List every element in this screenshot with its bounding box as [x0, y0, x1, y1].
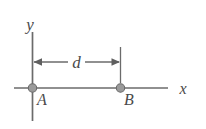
dimension-arrowhead-right	[112, 58, 121, 65]
point-label-a: A	[36, 91, 47, 108]
y-axis-label: y	[24, 15, 34, 34]
diagram-canvas: y x d A B	[0, 0, 206, 129]
point-marker-a	[28, 84, 36, 92]
x-axis-label: x	[178, 80, 186, 97]
point-label-b: B	[124, 91, 134, 108]
dimension-arrowhead-left	[34, 58, 43, 65]
dimension-label-d: d	[72, 53, 81, 72]
physics-diagram-figure: y x d A B	[0, 0, 206, 129]
